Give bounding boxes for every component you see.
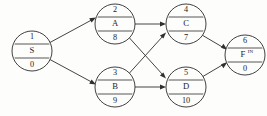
node-3[interactable]: 3 B 9 <box>95 67 135 107</box>
network-diagram: 1 S 0 2 A 8 3 B 9 4 C 7 <box>0 0 267 116</box>
edge-3-to-4 <box>130 33 167 73</box>
arrow-head-icon <box>160 72 166 78</box>
node-5-duration: 10 <box>182 96 190 105</box>
edge-1-to-2 <box>49 18 96 43</box>
node-5-id: 5 <box>184 68 188 77</box>
node-1-id: 1 <box>30 32 34 41</box>
node-3-name: B <box>112 81 118 91</box>
node-2-duration: 8 <box>113 33 117 42</box>
node-2-id: 2 <box>113 5 117 14</box>
node-5-name: D <box>183 81 189 91</box>
arrow-head-icon <box>160 85 166 90</box>
edge-4-to-6 <box>202 35 228 50</box>
node-6-name-superscript: IN <box>248 49 254 54</box>
node-4-id: 4 <box>184 5 188 14</box>
node-4[interactable]: 4 C 7 <box>166 4 206 44</box>
node-1-name: S <box>30 45 35 55</box>
node-4-duration: 7 <box>184 33 188 42</box>
node-2-name: A <box>112 18 119 28</box>
node-6-name: F <box>241 49 246 59</box>
edge-2-to-5 <box>130 38 167 78</box>
node-2[interactable]: 2 A 8 <box>95 4 135 44</box>
node-5[interactable]: 5 D 10 <box>166 67 206 107</box>
node-6-id: 6 <box>243 36 247 45</box>
edge-1-to-3 <box>49 59 96 84</box>
node-3-id: 3 <box>113 68 117 77</box>
node-4-name: C <box>183 18 189 28</box>
network-diagram-canvas: 1 S 0 2 A 8 3 B 9 4 C 7 <box>0 0 267 116</box>
arrow-head-icon <box>160 22 166 27</box>
edge-5-to-6 <box>202 62 228 77</box>
node-3-duration: 9 <box>113 96 117 105</box>
node-6[interactable]: 6 F IN 0 <box>225 35 265 75</box>
edge-2-to-4 <box>135 22 166 27</box>
node-1[interactable]: 1 S 0 <box>12 31 52 71</box>
node-6-duration: 0 <box>243 64 247 73</box>
node-1-duration: 0 <box>30 60 34 69</box>
edge-3-to-5 <box>135 85 166 90</box>
arrow-head-icon <box>160 33 166 39</box>
